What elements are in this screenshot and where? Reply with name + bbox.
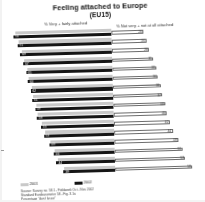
bar-not-attached	[114, 120, 170, 125]
bar-value-not-attached: 51	[177, 148, 181, 151]
chart-title: Feeling attached to Europe (EU15)	[0, 0, 203, 23]
bar-value-not-attached: 39	[160, 103, 164, 106]
bar-value-2002: 67	[25, 63, 29, 66]
bar-value-not-attached: 28	[144, 49, 148, 52]
bar-value-2002: 65	[28, 72, 32, 75]
bar-value-2002: 59	[37, 108, 41, 111]
bar-value-2002: 39	[65, 171, 69, 174]
bar-not-attached	[112, 57, 153, 62]
bar-2002	[49, 142, 114, 147]
bar-value-2002: 62	[32, 90, 36, 93]
bar-value-not-attached: 42	[165, 121, 169, 124]
bar-not-attached	[114, 111, 167, 116]
bar-value-not-attached: 48	[173, 139, 177, 142]
bar-value-2002: 74	[15, 36, 19, 39]
bar-not-attached	[114, 129, 173, 134]
left-axis-label: % Very + fairly attached	[44, 20, 87, 26]
scan-edge-left	[0, 0, 2, 202]
bar-value-2002: 53	[46, 135, 50, 138]
bar-2002	[63, 169, 115, 174]
bar-not-attached	[115, 147, 183, 152]
bar-not-attached	[113, 75, 158, 80]
bar-value-not-attached: 58	[187, 166, 191, 169]
bar-value-not-attached: 26	[141, 40, 145, 43]
scan-tick-mark	[1, 150, 4, 151]
bar-value-not-attached: 37	[157, 94, 161, 97]
bar-value-2002: 64	[30, 81, 34, 84]
scanned-chart-page: Feeling attached to Europe (EU15) % Very…	[0, 0, 205, 202]
bar-value-not-attached: 33	[151, 67, 155, 70]
bar-not-attached	[112, 66, 156, 71]
legend-label-2001: 2001	[30, 182, 39, 186]
plot-area: 7424712669286731653364346236613759395840…	[0, 26, 205, 180]
bar-value-not-attached: 36	[156, 85, 160, 88]
bar-not-attached	[113, 84, 161, 89]
bar-2002	[54, 151, 115, 156]
bar-value-not-attached: 24	[138, 31, 142, 34]
bar-value-2002: 49	[51, 144, 55, 147]
chart-subtitle: (EU15)	[0, 9, 203, 23]
bar-value-2002: 61	[34, 99, 38, 102]
bar-2002	[41, 124, 114, 129]
scan-edge-bottom	[0, 200, 205, 202]
bar-value-2002: 71	[19, 45, 23, 48]
bar-not-attached	[113, 102, 165, 107]
bar-value-2002: 44	[58, 162, 62, 165]
bar-not-attached	[114, 138, 178, 143]
bar-not-attached	[115, 156, 186, 161]
bar-value-2002: 58	[39, 117, 43, 120]
bar-value-not-attached: 40	[162, 112, 166, 115]
bar-not-attached	[113, 93, 162, 98]
bar-2002	[56, 160, 115, 165]
bar-value-not-attached: 34	[153, 76, 157, 79]
bar-not-attached	[115, 165, 192, 171]
bar-value-2002: 69	[22, 54, 26, 57]
bar-value-2002: 55	[43, 126, 47, 129]
legend-label-2002: 2002	[83, 180, 92, 184]
legend-swatch-2002	[75, 181, 83, 185]
bar-value-not-attached: 53	[180, 157, 184, 160]
bar-value-2002: 46	[56, 153, 60, 156]
legend-swatch-2001	[21, 183, 29, 187]
bar-2002	[44, 133, 115, 138]
bar-value-not-attached: 31	[148, 58, 152, 61]
bar-value-not-attached: 44	[168, 130, 172, 133]
